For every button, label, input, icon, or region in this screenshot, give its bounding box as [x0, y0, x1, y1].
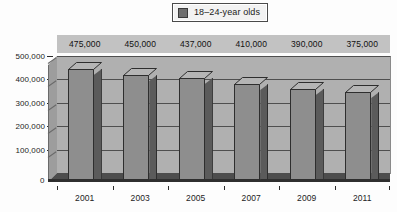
- bar-top-face: [345, 85, 379, 93]
- x-tick-mark-2007: [224, 186, 225, 190]
- data-label-2001: 475,000: [57, 39, 113, 49]
- x-tick-label-2001: 2001: [57, 186, 113, 208]
- legend-square-icon: [178, 8, 188, 18]
- gridline-200000: [57, 126, 390, 127]
- bar-2009[interactable]: [290, 82, 324, 180]
- data-label-2011: 375,000: [335, 39, 391, 49]
- data-label-band: 475,000450,000437,000410,000390,000375,0…: [57, 35, 390, 53]
- gridline-500000: [57, 56, 390, 57]
- gridline-100000: [57, 150, 390, 151]
- x-tick-mark-2011: [335, 186, 336, 190]
- plot-left-wall-edge: [48, 65, 49, 182]
- bar-front-face: [68, 69, 94, 180]
- bar-2011[interactable]: [345, 85, 379, 180]
- bar-side-face: [371, 92, 379, 180]
- bar-2003[interactable]: [123, 68, 157, 180]
- bar-top-face: [123, 68, 157, 76]
- x-tick-mark-end: [389, 186, 390, 190]
- chart-legend[interactable]: 18–24-year olds: [172, 3, 268, 22]
- y-axis-zero-label: 0: [40, 176, 44, 185]
- bar-side-face: [149, 75, 157, 180]
- bar-front-face: [345, 92, 371, 180]
- plot-left-wall: [48, 56, 57, 182]
- bar-top-face: [290, 82, 324, 90]
- legend-item-label: 18–24-year olds: [194, 8, 260, 17]
- gridline-400000: [57, 79, 390, 80]
- data-label-2003: 450,000: [113, 39, 169, 49]
- bar-2005[interactable]: [179, 71, 213, 180]
- x-tick-label-2011: 2011: [335, 186, 391, 208]
- plot-area: [0, 53, 397, 183]
- bar-2001[interactable]: [68, 62, 102, 180]
- bar-side-face: [316, 89, 324, 180]
- x-tick-mark-2003: [113, 186, 114, 190]
- bar-top-face: [234, 77, 268, 85]
- x-tick-label-2003: 2003: [113, 186, 169, 208]
- x-tick-mark-2009: [279, 186, 280, 190]
- data-label-2009: 390,000: [279, 39, 335, 49]
- x-tick-label-2007: 2007: [224, 186, 280, 208]
- x-tick-label-2009: 2009: [279, 186, 335, 208]
- x-tick-mark-2001: [57, 186, 58, 190]
- data-label-2005: 437,000: [168, 39, 224, 49]
- x-tick-mark-2005: [168, 186, 169, 190]
- plot-back-wall: [57, 56, 391, 174]
- bar-side-face: [260, 84, 268, 180]
- x-tick-label-2005: 2005: [168, 186, 224, 208]
- bar-side-face: [205, 78, 213, 180]
- bar-front-face: [179, 78, 205, 180]
- bar-top-face: [68, 62, 102, 70]
- bar-front-face: [290, 89, 316, 180]
- x-axis: 200120032005200720092011: [57, 186, 390, 208]
- data-label-2007: 410,000: [224, 39, 280, 49]
- y-axis-zero-tick: [49, 180, 55, 181]
- gridline-300000: [57, 103, 390, 104]
- chart-container: 18–24-year olds 475,000450,000437,000410…: [0, 0, 397, 212]
- bar-front-face: [123, 75, 149, 180]
- bar-side-face: [94, 69, 102, 180]
- bar-front-face: [234, 84, 260, 180]
- bar-2007[interactable]: [234, 77, 268, 180]
- bar-top-face: [179, 71, 213, 79]
